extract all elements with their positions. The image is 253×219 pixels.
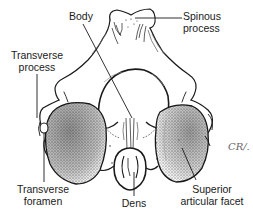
left-articular-facet xyxy=(46,103,107,184)
right-articular-facet xyxy=(155,105,208,182)
label-transverse-foramen: Transverse foramen xyxy=(12,183,74,207)
central-ridge xyxy=(106,118,156,150)
label-transverse-process: Transverse process xyxy=(6,49,68,73)
label-body: Body xyxy=(69,10,93,22)
transverse-foramen xyxy=(40,123,48,133)
vertebra-diagram: Body Spinous process Transverse process … xyxy=(0,0,253,219)
artist-signature: CR/. xyxy=(228,141,250,153)
label-dens: Dens xyxy=(118,197,150,209)
label-superior-articular-facet: Superior articular facet xyxy=(172,183,252,207)
spinous-dots xyxy=(125,18,137,27)
dens xyxy=(114,148,146,190)
label-spinous-process: Spinous process xyxy=(183,10,221,34)
